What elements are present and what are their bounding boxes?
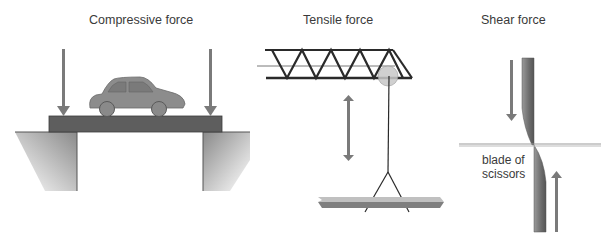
shear-arrow-up [551, 171, 562, 232]
upper-blade [522, 58, 534, 145]
lower-blade [534, 145, 546, 232]
force-diagram [0, 0, 614, 239]
compression-arrow-right [204, 49, 217, 116]
crane-cable [388, 76, 389, 172]
shear-arrow-down [506, 60, 517, 121]
ground-left [15, 132, 77, 191]
hanging-load [318, 197, 444, 208]
shear-panel [459, 58, 601, 232]
blade-annotation-line2: scissors [482, 167, 525, 181]
compression-arrow-left [57, 49, 70, 116]
tensile-title: Tensile force [303, 13, 373, 27]
blade-annotation: blade of scissors [482, 153, 525, 181]
compressive-panel [15, 49, 250, 191]
bridge-beam [49, 116, 222, 132]
shear-title: Shear force [481, 13, 546, 27]
shear-plane-line [459, 144, 601, 146]
ground-right [203, 132, 250, 191]
compressive-title: Compressive force [89, 13, 193, 27]
pulley-icon [378, 66, 398, 86]
tensile-panel [257, 50, 444, 212]
car-icon [90, 77, 185, 117]
tension-double-arrow [343, 95, 354, 161]
blade-annotation-line1: blade of [482, 153, 525, 167]
